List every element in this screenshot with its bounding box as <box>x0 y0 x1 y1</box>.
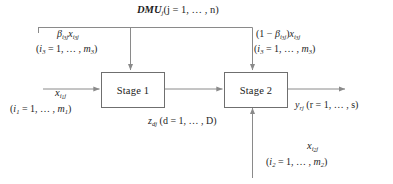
beta-flow-label: βi3jxi3j <box>57 28 79 39</box>
x2-sub-j: j <box>316 145 318 152</box>
beta-range-label: (i3 = 1, … , m3) <box>36 43 97 54</box>
two-stage-network-dmu-diagram: DMUj(j = 1, … , n) βi3jxi3j (i3 = 1, … ,… <box>0 0 393 184</box>
omb-range-close: ) <box>312 43 315 54</box>
x2-range-m: m <box>314 156 321 167</box>
one-minus-beta-x-sub-j: j <box>298 33 300 40</box>
dmu-title-label: DMUj(j = 1, … , n) <box>137 4 219 16</box>
stage-1-label: Stage 1 <box>117 85 150 96</box>
stage-1-node[interactable]: Stage 1 <box>101 72 165 108</box>
input-x1-range-label: (i1 = 1, … , m1) <box>10 103 71 114</box>
beta-range-m: m <box>84 43 91 54</box>
x1-sub-j: j <box>64 92 66 99</box>
x2-range-close: ) <box>324 156 327 167</box>
one-minus-beta-flow-label: (1 − βi3j)xi3j <box>256 28 300 39</box>
beta-range-eq: = 1, … , <box>45 43 83 54</box>
output-y-label: yrj (r = 1, … , s) <box>295 99 358 110</box>
beta-range-close: ) <box>94 43 97 54</box>
x2-range-eq: = 1, … , <box>275 156 313 167</box>
one-minus-beta-range-label: (i3 = 1, … , m3) <box>254 43 315 54</box>
dmu-title-range: (j = 1, … , n) <box>163 4 218 15</box>
stage-2-node[interactable]: Stage 2 <box>224 72 288 108</box>
dmu-title-text: DMU <box>137 4 162 15</box>
input-x2-label: xi2j <box>307 140 318 152</box>
omb-range-eq: = 1, … , <box>263 43 301 54</box>
intermediate-z-label: zdj (d = 1, … , D) <box>148 115 217 126</box>
input-x2-range-label: (i2 = 1, … , m2) <box>266 156 327 167</box>
x1-range-m: m <box>58 103 65 114</box>
omb-range-m: m <box>302 43 309 54</box>
beta-x-sub-j: j <box>77 33 79 40</box>
z-range: (d = 1, … , D) <box>157 115 217 126</box>
y-range: (r = 1, … , s) <box>304 99 359 110</box>
one-minus-beta-prefix: (1 − <box>256 28 275 39</box>
x1-range-eq: = 1, … , <box>19 103 57 114</box>
x1-range-close: ) <box>68 103 71 114</box>
input-x1-label: xi1j <box>55 87 66 99</box>
stage-2-label: Stage 2 <box>240 85 273 96</box>
